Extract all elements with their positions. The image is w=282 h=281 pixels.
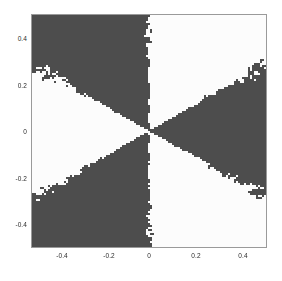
x-tick-label-0.2: 0.2 xyxy=(184,252,208,259)
y-tick-label--0.2: -0.2 xyxy=(5,175,27,182)
x-tick-label--0.2: -0.2 xyxy=(97,252,121,259)
y-tick-label-0.4: 0.4 xyxy=(5,35,27,42)
x-tick-label--0.4: -0.4 xyxy=(50,252,74,259)
fractal-figure: 0.4 0.2 0 -0.2 -0.4 -0.4 -0.2 0 0.2 0.4 xyxy=(0,0,282,281)
x-tick-label-0.4: 0.4 xyxy=(231,252,255,259)
y-tick-label-0: 0 xyxy=(5,128,27,135)
x-tick-label-0: 0 xyxy=(137,252,161,259)
fractal-basin-heatmap xyxy=(32,15,266,247)
y-tick-label--0.4: -0.4 xyxy=(5,221,27,228)
plot-area xyxy=(31,14,267,248)
y-tick-label-0.2: 0.2 xyxy=(5,82,27,89)
